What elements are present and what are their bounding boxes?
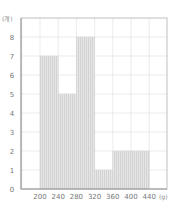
histogram-bar-360-400: [113, 151, 131, 189]
x-tick-label: 280: [70, 193, 83, 201]
y-axis-unit-label: (개): [2, 15, 13, 23]
x-axis-ticks: 200240280320360400440: [33, 193, 156, 201]
y-tick-label: 5: [10, 91, 14, 99]
x-tick-label: 240: [52, 193, 65, 201]
x-axis-unit-label: (g): [159, 193, 168, 201]
x-tick-label: 200: [33, 193, 46, 201]
y-tick-label: 7: [10, 53, 14, 61]
x-tick-label: 320: [88, 193, 101, 201]
y-tick-label: 6: [10, 72, 15, 80]
histogram-bar-320-360: [95, 170, 113, 189]
histogram-bar-240-280: [58, 94, 76, 189]
x-tick-label: 400: [124, 193, 137, 201]
y-axis-ticks: 012345678: [10, 34, 15, 194]
y-tick-label: 1: [10, 167, 14, 175]
histogram-chart: 012345678 200240280320360400440 (개) (g): [0, 0, 177, 209]
y-tick-label: 0: [10, 186, 14, 194]
y-tick-label: 4: [10, 110, 15, 118]
x-tick-label: 440: [143, 193, 156, 201]
histogram-bar-200-240: [40, 56, 58, 189]
y-tick-label: 2: [10, 148, 14, 156]
y-tick-label: 3: [10, 129, 14, 137]
histogram-bar-400-440: [131, 151, 149, 189]
histogram-bar-280-320: [76, 37, 94, 189]
x-tick-label: 360: [106, 193, 119, 201]
y-tick-label: 8: [10, 34, 14, 42]
